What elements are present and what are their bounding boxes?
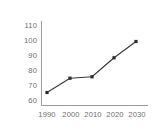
y-tick-label: 90: [28, 51, 37, 60]
data-point-marker: [45, 91, 48, 94]
data-point-marker: [90, 75, 93, 78]
x-tick-label: 1990: [38, 110, 55, 119]
x-tick-label: 2030: [128, 110, 145, 119]
y-tick-label: 70: [28, 81, 37, 90]
x-tick-label: 2010: [84, 110, 101, 119]
y-tick-label: 80: [28, 66, 37, 75]
x-tick-label: 2000: [62, 110, 79, 119]
data-point-marker: [68, 77, 71, 80]
y-tick-label: 110: [25, 21, 37, 30]
y-tick-label: 60: [28, 96, 37, 105]
data-point-marker: [134, 40, 137, 43]
line-chart: 110 100 90 80 70 60 1990 2000 2010 2020 …: [0, 0, 153, 131]
y-tick-label: 100: [24, 36, 37, 45]
chart-plot-area: 110 100 90 80 70 60 1990 2000 2010 2020 …: [0, 0, 153, 131]
series-line: [47, 42, 136, 93]
x-tick-label: 2020: [106, 110, 123, 119]
data-point-marker: [112, 56, 115, 59]
